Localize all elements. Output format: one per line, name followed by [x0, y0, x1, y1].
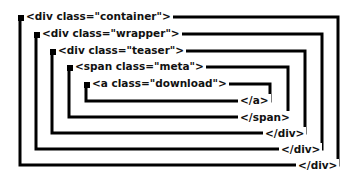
open-tag-container: <div class="container">: [24, 10, 173, 22]
close-tag-meta: </span>: [238, 111, 292, 123]
open-tag-download: <a class="download">: [90, 77, 229, 89]
open-tag-teaser: <div class="teaser">: [56, 44, 186, 56]
close-tag-teaser: </div>: [263, 127, 306, 139]
open-tag-meta: <span class="meta">: [73, 60, 206, 72]
close-tag-download: </a>: [238, 94, 271, 106]
close-tag-container: </div>: [296, 159, 339, 171]
bracket-meta: [69, 67, 288, 117]
close-tag-wrapper: </div>: [279, 143, 322, 155]
open-tag-wrapper: <div class="wrapper">: [40, 27, 182, 39]
